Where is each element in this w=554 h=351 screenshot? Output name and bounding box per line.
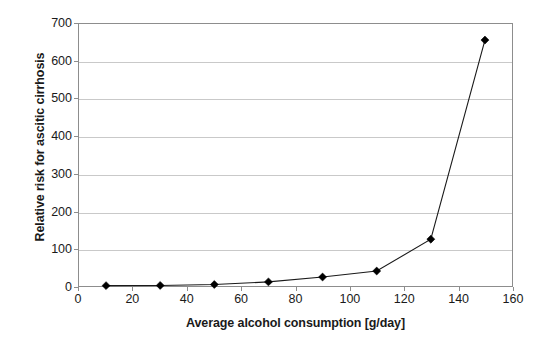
data-point-marker — [481, 36, 489, 44]
series-line — [106, 40, 485, 286]
x-tick-mark — [132, 287, 133, 291]
x-tick-label: 20 — [110, 292, 154, 306]
x-tick-mark — [350, 287, 351, 291]
x-tick-label: 0 — [56, 292, 100, 306]
data-point-marker — [427, 235, 435, 243]
x-tick-label: 160 — [491, 292, 535, 306]
x-tick-label: 40 — [165, 292, 209, 306]
x-tick-mark — [404, 287, 405, 291]
x-tick-label: 80 — [274, 292, 318, 306]
series-markers — [102, 36, 489, 289]
x-tick-mark — [241, 287, 242, 291]
data-point-marker — [264, 278, 272, 286]
x-tick-mark — [459, 287, 460, 291]
x-tick-label: 60 — [219, 292, 263, 306]
y-tick-label: 700 — [32, 16, 72, 30]
x-tick-mark — [513, 287, 514, 291]
x-tick-mark — [187, 287, 188, 291]
x-tick-mark — [78, 287, 79, 291]
data-point-marker — [373, 267, 381, 275]
plot-area — [78, 23, 513, 287]
x-axis-title: Average alcohol consumption [g/day] — [78, 316, 513, 330]
y-tick-label: 200 — [32, 205, 72, 219]
y-axis-tick-labels: 0100200300400500600700 — [28, 23, 72, 287]
x-tick-label: 140 — [437, 292, 481, 306]
y-tick-label: 600 — [32, 54, 72, 68]
data-point-marker — [319, 273, 327, 281]
x-tick-mark — [296, 287, 297, 291]
y-tick-label: 500 — [32, 91, 72, 105]
y-tick-label: 100 — [32, 242, 72, 256]
x-axis-tick-labels: 020406080100120140160 — [78, 292, 513, 310]
y-tick-label: 400 — [32, 129, 72, 143]
chart-container: Relative risk for ascitic cirrhosis 0100… — [0, 0, 554, 351]
data-series-layer — [79, 24, 512, 286]
x-tick-label: 100 — [328, 292, 372, 306]
y-tick-label: 300 — [32, 167, 72, 181]
x-tick-label: 120 — [382, 292, 426, 306]
